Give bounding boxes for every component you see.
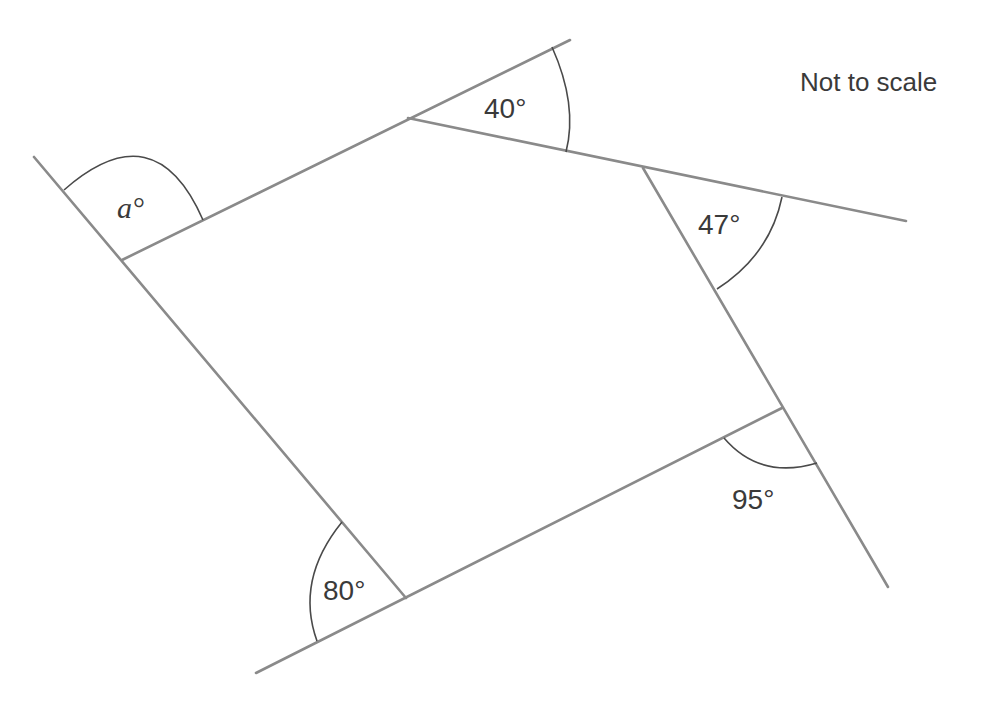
side-top-left-extended [122,40,570,260]
angle-label-47: 47° [698,211,740,239]
not-to-scale-note: Not to scale [800,69,937,95]
angle-label-95: 95° [732,486,774,514]
angle-label-a: a° [117,193,144,223]
angle-label-40: 40° [484,95,526,123]
angle-label-80: 80° [323,577,365,605]
side-left-extended [34,157,406,598]
side-top-right-extended [408,118,906,221]
angle-arc-40 [552,47,570,152]
side-bottom-extended [256,408,782,673]
side-right-extended [643,168,888,587]
